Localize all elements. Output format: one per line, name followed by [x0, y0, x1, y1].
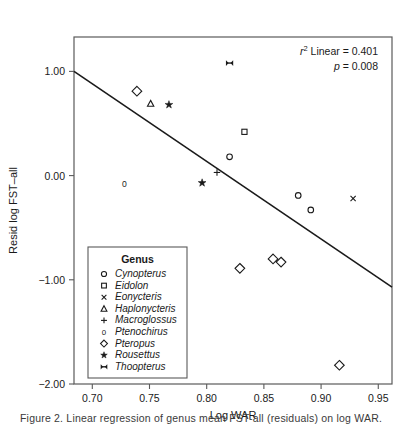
x-tick-label: 0.80 [196, 392, 217, 404]
legend-title: Genus [121, 253, 154, 265]
figure-caption: Figure 2. Linear regression of genus mea… [20, 412, 400, 424]
legend-label-eonycteris: Eonycteris [115, 291, 162, 302]
legend-label-ptenochirus: Ptenochirus [115, 326, 168, 337]
legend-label-eidolon: Eidolon [115, 280, 149, 291]
r-squared-annotation: r2 Linear = 0.401 [300, 44, 378, 58]
legend-label-macroglossus: Macroglossus [115, 314, 177, 325]
x-tick-label: 0.85 [254, 392, 275, 404]
legend-label-haplonycteris: Haplonycteris [115, 303, 176, 314]
svg-text:0: 0 [102, 328, 107, 337]
x-tick-label: 0.95 [368, 392, 389, 404]
svg-text:0: 0 [122, 179, 127, 189]
y-tick-label: −2.00 [38, 378, 65, 390]
x-tick-label: 0.90 [311, 392, 332, 404]
x-tick-label: 0.75 [139, 392, 160, 404]
y-axis-label: Resid log FST–all [7, 167, 19, 254]
y-tick-label: −1.00 [38, 274, 65, 286]
legend-marker-ptenochirus: 0 [102, 328, 107, 337]
x-tick-label: 0.70 [82, 392, 103, 404]
data-point-ptenochirus: 0 [122, 179, 127, 189]
figure-panel: 0.700.750.800.850.900.951.000.00−1.00−2.… [0, 0, 415, 438]
y-tick-label: 1.00 [45, 65, 66, 77]
scatter-plot: 0.700.750.800.850.900.951.000.00−1.00−2.… [0, 0, 415, 438]
legend-label-thoopterus: Thoopterus [115, 361, 166, 372]
y-tick-label: 0.00 [45, 170, 66, 182]
p-value-annotation: p = 0.008 [333, 60, 378, 72]
legend-label-rousettus: Rousettus [115, 349, 160, 360]
legend-label-cynopterus: Cynopterus [115, 268, 166, 279]
legend-label-pteropus: Pteropus [115, 338, 155, 349]
